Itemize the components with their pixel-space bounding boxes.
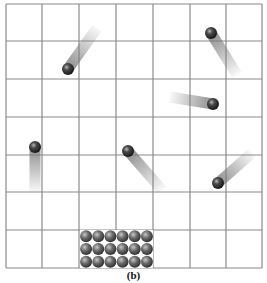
motion-trail <box>218 153 252 183</box>
moving-particles <box>29 27 224 189</box>
cluster-particle <box>129 230 141 242</box>
diagram-canvas <box>0 0 267 283</box>
motion-trails <box>35 28 252 192</box>
particle-diagram: (b) <box>0 0 267 283</box>
cluster-particle <box>129 256 141 268</box>
cluster-particle <box>92 243 104 255</box>
cluster-particle <box>92 230 104 242</box>
motion-trail <box>128 151 162 190</box>
cluster-particle <box>104 256 116 268</box>
particle <box>207 98 219 110</box>
particle <box>212 177 224 189</box>
cluster-particle <box>141 230 153 242</box>
cluster-particle <box>117 230 129 242</box>
particle <box>122 145 134 157</box>
figure-caption: (b) <box>0 268 267 283</box>
cluster-particle <box>141 243 153 255</box>
cluster-particle <box>117 243 129 255</box>
motion-trail <box>170 97 213 104</box>
particle <box>205 27 217 39</box>
cluster-particle <box>104 243 116 255</box>
cluster-particle <box>80 230 92 242</box>
packed-particle-cluster <box>80 230 153 268</box>
motion-trail <box>68 28 97 69</box>
cluster-particle <box>117 256 129 268</box>
motion-trail <box>211 33 237 75</box>
particle <box>62 63 74 75</box>
cluster-particle <box>80 256 92 268</box>
cluster-particle <box>104 230 116 242</box>
cluster-particle <box>129 243 141 255</box>
cluster-particle <box>92 256 104 268</box>
particle <box>29 141 41 153</box>
cluster-particle <box>80 243 92 255</box>
cluster-particle <box>141 256 153 268</box>
